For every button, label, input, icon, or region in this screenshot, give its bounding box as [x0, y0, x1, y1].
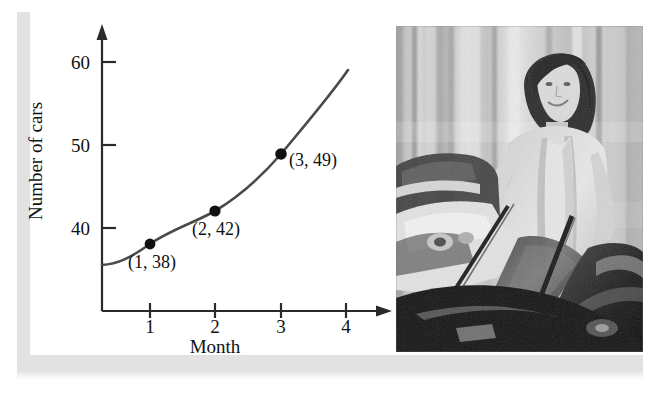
y-tick-marks: [102, 62, 116, 228]
x-axis: [102, 306, 392, 317]
x-axis-title: Month: [165, 336, 265, 358]
line-chart: 60 50 40 1 2 3 4 (1, 38) (2, 42) (3, 49)…: [0, 0, 400, 400]
y-tick-label: 50: [50, 135, 90, 157]
y-tick-label: 60: [50, 52, 90, 74]
x-tick-label: 2: [203, 316, 227, 338]
y-tick-label: 40: [50, 218, 90, 240]
x-tick-label: 4: [334, 316, 358, 338]
data-point: [209, 205, 220, 216]
y-axis: [97, 24, 108, 311]
x-tick-label: 3: [269, 316, 293, 338]
point-label-1: (1, 38): [128, 252, 176, 273]
data-point: [145, 239, 156, 250]
x-tick-label: 1: [138, 316, 162, 338]
point-label-3: (3, 49): [289, 150, 337, 171]
textbook-figure: 60 50 40 1 2 3 4 (1, 38) (2, 42) (3, 49)…: [0, 0, 658, 400]
y-axis-title: Number of cars: [25, 91, 47, 231]
photograph: [396, 26, 643, 352]
data-point: [275, 148, 287, 160]
point-label-2: (2, 42): [192, 219, 240, 240]
photograph-image: [396, 26, 643, 352]
